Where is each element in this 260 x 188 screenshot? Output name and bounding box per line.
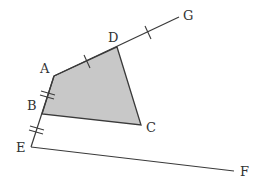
point-label-f: F xyxy=(240,164,249,179)
point-label-e: E xyxy=(16,140,26,155)
point-label-a: A xyxy=(39,61,50,76)
point-label-d: D xyxy=(108,30,118,45)
line-e-f xyxy=(31,147,234,171)
geometry-figure: A B C D E F G xyxy=(0,0,260,188)
point-label-g: G xyxy=(183,8,193,23)
point-label-b: B xyxy=(27,98,37,113)
point-label-c: C xyxy=(146,120,156,135)
